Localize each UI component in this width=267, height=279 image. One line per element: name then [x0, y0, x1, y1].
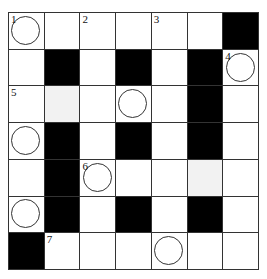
crossword-cell[interactable]: 6: [80, 160, 115, 196]
clue-number: 3: [154, 13, 160, 25]
circle-marker-icon: [11, 126, 40, 155]
black-square: [116, 50, 151, 86]
black-square: [45, 197, 80, 233]
black-square: [45, 160, 80, 196]
crossword-cell[interactable]: 1: [9, 13, 44, 49]
crossword-cell[interactable]: [80, 233, 115, 269]
crossword-cell[interactable]: [152, 160, 187, 196]
crossword-cell[interactable]: [188, 160, 223, 196]
crossword-cell[interactable]: [188, 233, 223, 269]
clue-number: 7: [47, 233, 53, 245]
clue-number: 4: [225, 50, 231, 62]
clue-number: 1: [11, 13, 17, 25]
black-square: [45, 50, 80, 86]
crossword-cell[interactable]: [116, 233, 151, 269]
crossword-cell[interactable]: [223, 123, 258, 159]
black-square: [188, 50, 223, 86]
crossword-cell[interactable]: [9, 123, 44, 159]
crossword-cell[interactable]: [223, 233, 258, 269]
crossword-cell[interactable]: 7: [45, 233, 80, 269]
clue-number: 5: [11, 86, 17, 98]
crossword-cell[interactable]: [9, 50, 44, 86]
crossword-cell[interactable]: 5: [9, 86, 44, 122]
crossword-cell[interactable]: [223, 197, 258, 233]
black-square: [9, 233, 44, 269]
crossword-cell[interactable]: [80, 197, 115, 233]
black-square: [188, 197, 223, 233]
crossword-cell[interactable]: [45, 86, 80, 122]
crossword-cell[interactable]: [223, 160, 258, 196]
crossword-cell[interactable]: [9, 160, 44, 196]
crossword-cell[interactable]: 4: [223, 50, 258, 86]
crossword-cell[interactable]: [152, 123, 187, 159]
clue-number: 2: [82, 13, 88, 25]
crossword-cell[interactable]: [116, 160, 151, 196]
black-square: [116, 123, 151, 159]
clue-number: 6: [82, 160, 88, 172]
crossword-cell[interactable]: [152, 50, 187, 86]
crossword-cell[interactable]: [152, 197, 187, 233]
black-square: [223, 13, 258, 49]
circle-marker-icon: [118, 89, 147, 118]
crossword-cell[interactable]: [116, 86, 151, 122]
crossword-cell[interactable]: [188, 13, 223, 49]
crossword-cell[interactable]: [223, 86, 258, 122]
crossword-cell[interactable]: 2: [80, 13, 115, 49]
crossword-cell[interactable]: 3: [152, 13, 187, 49]
crossword-cell[interactable]: [80, 50, 115, 86]
crossword-cell[interactable]: [45, 13, 80, 49]
crossword-cell[interactable]: [9, 197, 44, 233]
crossword-cell[interactable]: [152, 86, 187, 122]
black-square: [188, 123, 223, 159]
circle-marker-icon: [11, 199, 40, 228]
crossword-grid: 1234567: [8, 12, 259, 270]
crossword-cell[interactable]: [152, 233, 187, 269]
crossword-cell[interactable]: [116, 13, 151, 49]
black-square: [116, 197, 151, 233]
crossword-cell[interactable]: [80, 123, 115, 159]
circle-marker-icon: [154, 236, 183, 265]
black-square: [45, 123, 80, 159]
black-square: [188, 86, 223, 122]
crossword-cell[interactable]: [80, 86, 115, 122]
